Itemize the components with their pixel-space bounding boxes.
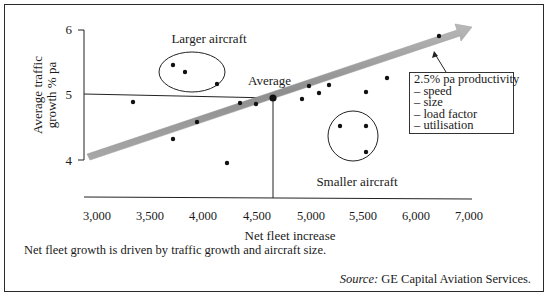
- x-axis: 3,000 3,500 4,000 4,500 5,000 5,500 6,00…: [83, 197, 483, 243]
- data-point: [131, 100, 135, 104]
- data-point: [215, 82, 219, 86]
- y-tick-4: 4: [66, 153, 73, 168]
- y-axis-label-line1: Average traffic: [30, 56, 45, 134]
- data-point: [317, 91, 321, 95]
- y-axis-label-line2: growth % pa: [44, 62, 59, 129]
- data-point: [225, 161, 229, 165]
- data-point: [238, 101, 242, 105]
- productivity-callout-box: 2.5% pa productivity – speed – size – lo…: [409, 72, 514, 134]
- x-tick-5000: 5,000: [297, 209, 325, 223]
- y-tick-6: 6: [66, 22, 73, 37]
- data-point: [327, 83, 331, 87]
- figure-source: Source: GE Capital Aviation Services.: [340, 272, 531, 287]
- smaller-aircraft-label: Smaller aircraft: [316, 174, 398, 189]
- x-tick-3500: 3,500: [136, 209, 164, 223]
- x-tick-4500: 4,500: [243, 209, 271, 223]
- average-data-point: [269, 94, 276, 101]
- data-point: [307, 84, 311, 88]
- data-point: [300, 97, 304, 101]
- larger-aircraft-label: Larger aircraft: [171, 31, 247, 46]
- data-point: [338, 124, 342, 128]
- larger-aircraft-ellipse: [159, 52, 225, 92]
- x-tick-6000: 6,000: [402, 209, 430, 223]
- callout-pointer: [435, 54, 446, 72]
- data-point: [254, 102, 258, 106]
- source-label: Source:: [340, 272, 378, 286]
- callout-item-utilisation: – utilisation: [414, 120, 509, 132]
- figure-caption: Net fleet growth is driven by traffic gr…: [24, 243, 326, 258]
- average-label: Average: [248, 73, 291, 88]
- data-point: [364, 150, 368, 154]
- x-axis-label: Net fleet increase: [245, 228, 336, 243]
- data-point: [364, 124, 368, 128]
- data-point: [385, 76, 389, 80]
- data-point: [437, 34, 441, 38]
- data-point: [171, 137, 175, 141]
- y-axis: 6 5 4 Average traffic growth % pa: [30, 22, 84, 168]
- data-point: [171, 63, 175, 67]
- x-tick-3000: 3,000: [83, 209, 111, 223]
- data-point: [183, 70, 187, 74]
- y-tick-5: 5: [66, 87, 73, 102]
- data-point: [195, 120, 199, 124]
- smaller-aircraft-circle: [328, 111, 378, 161]
- x-tick-5500: 5,500: [349, 209, 377, 223]
- data-point: [364, 90, 368, 94]
- source-text: GE Capital Aviation Services.: [378, 272, 531, 286]
- x-tick-7000: 7,000: [455, 209, 483, 223]
- x-tick-4000: 4,000: [189, 209, 217, 223]
